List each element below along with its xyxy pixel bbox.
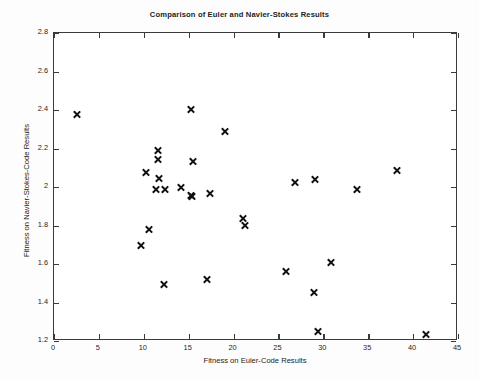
y-tick bbox=[54, 110, 59, 111]
y-tick-right bbox=[451, 264, 456, 265]
scatter-point bbox=[152, 185, 161, 194]
y-tick bbox=[54, 226, 59, 227]
y-tick-label: 1.2 bbox=[16, 335, 48, 344]
x-axis-label: Fitness on Euler-Code Results bbox=[53, 356, 457, 365]
scatter-point bbox=[161, 185, 170, 194]
y-tick-right bbox=[451, 110, 456, 111]
x-tick-label: 30 bbox=[310, 343, 334, 352]
x-tick-top bbox=[234, 33, 235, 38]
scatter-point bbox=[187, 105, 196, 114]
scatter-point bbox=[241, 221, 250, 230]
scatter-point bbox=[392, 166, 401, 175]
x-tick-label: 45 bbox=[445, 343, 469, 352]
scatter-point bbox=[311, 175, 320, 184]
scatter-point bbox=[72, 110, 81, 119]
x-tick-top bbox=[99, 33, 100, 38]
scatter-point bbox=[290, 178, 299, 187]
x-tick-top bbox=[458, 33, 459, 38]
chart-title: Comparison of Euler and Navier-Stokes Re… bbox=[0, 10, 479, 19]
plot-area bbox=[53, 32, 457, 340]
scatter-point bbox=[310, 288, 319, 297]
scatter-point bbox=[352, 185, 361, 194]
scatter-point bbox=[154, 146, 163, 155]
x-tick bbox=[458, 334, 459, 339]
x-tick-top bbox=[413, 33, 414, 38]
x-tick bbox=[54, 334, 55, 339]
scatter-point bbox=[160, 280, 169, 289]
x-tick bbox=[278, 334, 279, 339]
x-tick-label: 35 bbox=[355, 343, 379, 352]
scatter-point bbox=[281, 267, 290, 276]
x-tick bbox=[234, 334, 235, 339]
y-tick bbox=[54, 72, 59, 73]
x-tick-label: 15 bbox=[176, 343, 200, 352]
scatter-point bbox=[202, 275, 211, 284]
scatter-point bbox=[238, 214, 247, 223]
y-tick bbox=[54, 33, 59, 34]
y-tick-label: 2.6 bbox=[16, 66, 48, 75]
scatter-point bbox=[187, 191, 196, 200]
scatter-point bbox=[154, 155, 163, 164]
scatter-point bbox=[206, 189, 215, 198]
y-tick bbox=[54, 187, 59, 188]
x-tick bbox=[144, 334, 145, 339]
x-tick bbox=[99, 334, 100, 339]
y-tick bbox=[54, 149, 59, 150]
x-tick-top bbox=[144, 33, 145, 38]
y-tick-right bbox=[451, 226, 456, 227]
x-tick-label: 25 bbox=[265, 343, 289, 352]
scatter-point bbox=[188, 192, 197, 201]
x-tick bbox=[189, 334, 190, 339]
scatter-point bbox=[176, 183, 185, 192]
x-tick-top bbox=[278, 33, 279, 38]
scatter-point bbox=[137, 241, 146, 250]
y-tick bbox=[54, 264, 59, 265]
y-tick-right bbox=[451, 187, 456, 188]
scatter-point bbox=[155, 174, 164, 183]
x-tick-top bbox=[189, 33, 190, 38]
y-axis-label: Fitness on Navier-Stokes-Code Results bbox=[22, 91, 31, 291]
y-tick-right bbox=[451, 303, 456, 304]
scatter-point bbox=[141, 168, 150, 177]
x-tick bbox=[323, 334, 324, 339]
y-tick-right bbox=[451, 72, 456, 73]
y-tick-label: 2.8 bbox=[16, 27, 48, 36]
x-tick bbox=[413, 334, 414, 339]
scatter-point bbox=[327, 258, 336, 267]
x-tick-label: 40 bbox=[400, 343, 424, 352]
y-tick-label: 1.4 bbox=[16, 297, 48, 306]
y-tick bbox=[54, 303, 59, 304]
y-tick-right bbox=[451, 149, 456, 150]
scatter-point bbox=[313, 327, 322, 336]
scatter-point bbox=[220, 127, 229, 136]
x-tick-label: 10 bbox=[131, 343, 155, 352]
scatter-point bbox=[421, 330, 430, 339]
x-tick-label: 0 bbox=[41, 343, 65, 352]
x-tick-label: 5 bbox=[86, 343, 110, 352]
x-tick-top bbox=[323, 33, 324, 38]
x-tick-label: 20 bbox=[221, 343, 245, 352]
x-tick-top bbox=[368, 33, 369, 38]
x-tick bbox=[368, 334, 369, 339]
y-tick-right bbox=[451, 33, 456, 34]
scatter-point bbox=[145, 225, 154, 234]
scatter-point bbox=[189, 157, 198, 166]
figure-canvas: Comparison of Euler and Navier-Stokes Re… bbox=[0, 0, 479, 379]
